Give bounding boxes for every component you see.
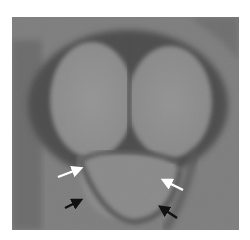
mri-anatomy-rendering (12, 17, 239, 230)
mri-image (12, 17, 239, 230)
